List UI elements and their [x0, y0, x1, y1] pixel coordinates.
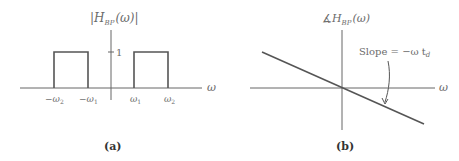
panel-b-annotation-arrow: [385, 61, 389, 102]
panel-a-tick-omega2: ω2: [164, 94, 175, 105]
panel-b-y-label: ∡HBP(ω): [322, 12, 370, 27]
panel-b-caption: (b): [336, 140, 354, 153]
panel-a-caption: (a): [104, 140, 122, 153]
panel-a-y-label: |HBP(ω)|: [90, 11, 139, 27]
panel-a-magnitude: |HBP(ω)| 1 ω −ω2 −ω1 ω1 ω2 (a): [20, 11, 216, 153]
panel-b-phase: ∡HBP(ω) ω Slope = −ω td (b): [250, 12, 448, 153]
bandpass-filter-figure: |HBP(ω)| 1 ω −ω2 −ω1 ω1 ω2 (a) ∡HBP(ω): [0, 0, 459, 161]
panel-a-positive-passband: [134, 52, 168, 88]
panel-a-tick-omega1: ω1: [130, 94, 141, 105]
panel-b-slope-annotation: Slope = −ω td: [359, 46, 431, 59]
panel-a-tick-neg-omega1: −ω1: [79, 94, 98, 105]
panel-a-negative-passband: [54, 52, 88, 88]
panel-a-level-label: 1: [116, 47, 122, 58]
panel-a-tick-neg-omega2: −ω2: [45, 94, 64, 105]
panel-a-x-label: ω: [207, 81, 216, 94]
panel-b-x-label: ω: [439, 81, 448, 94]
